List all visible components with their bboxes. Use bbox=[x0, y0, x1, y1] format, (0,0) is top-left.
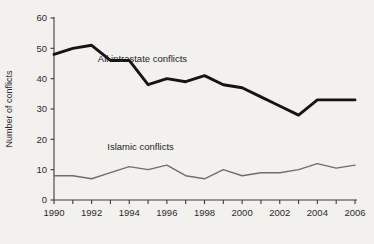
x-tick-label: 2006 bbox=[344, 207, 365, 218]
y-tick-label: 0 bbox=[42, 194, 47, 205]
x-tick-label: 1996 bbox=[156, 207, 177, 218]
y-tick-label: 50 bbox=[36, 43, 47, 54]
x-tick-label: 1998 bbox=[194, 207, 215, 218]
y-tick-label: 60 bbox=[36, 12, 47, 23]
x-tick-label: 1992 bbox=[81, 207, 102, 218]
x-tick-label: 1994 bbox=[119, 207, 140, 218]
x-tick-label: 2004 bbox=[307, 207, 328, 218]
line-chart: 0102030405060199019921994199619982000200… bbox=[0, 0, 374, 244]
x-tick-label: 1990 bbox=[43, 207, 64, 218]
series-line-islamic bbox=[54, 164, 355, 179]
y-tick-label: 10 bbox=[36, 164, 47, 175]
series-label-intrastate: All intrastate conflicts bbox=[98, 53, 187, 64]
x-tick-label: 2000 bbox=[232, 207, 253, 218]
chart-figure: 0102030405060199019921994199619982000200… bbox=[0, 0, 374, 244]
y-tick-label: 30 bbox=[36, 103, 47, 114]
y-axis-title: Number of conflicts bbox=[4, 70, 14, 148]
y-tick-label: 40 bbox=[36, 73, 47, 84]
y-tick-label: 20 bbox=[36, 134, 47, 145]
series-label-islamic: Islamic conflicts bbox=[107, 141, 174, 152]
x-tick-label: 2002 bbox=[269, 207, 290, 218]
